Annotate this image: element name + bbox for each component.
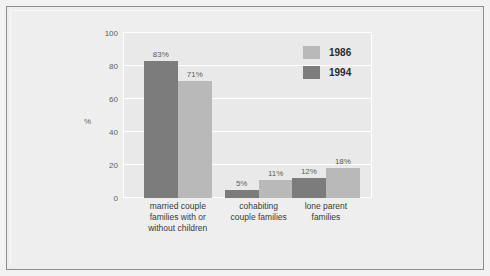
x-axis-category-label: lone parentfamilies (280, 201, 372, 223)
legend-label: 1986 (329, 47, 351, 58)
bar-value-label: 12% (289, 167, 329, 176)
bar-item[interactable]: 83% (144, 33, 178, 198)
figure-container: 020406080100 % 83%71%5%11%12%18% married… (0, 0, 490, 276)
bar[interactable] (326, 168, 360, 198)
x-axis-label-line: families (280, 212, 372, 223)
y-axis-tick-label: 20 (84, 161, 118, 170)
y-axis-title: % (84, 117, 91, 126)
bar-group: 5%11% (223, 33, 295, 198)
bar[interactable] (225, 190, 259, 198)
bar[interactable] (178, 81, 212, 198)
axis-left-edge (123, 33, 124, 198)
legend-swatch (303, 46, 320, 59)
x-axis-category-label: married couplefamilies with orwithout ch… (132, 201, 224, 234)
y-axis-tick-label: 60 (84, 95, 118, 104)
bar-value-label: 83% (141, 50, 181, 59)
y-axis-tick-label: 80 (84, 62, 118, 71)
chart-legend: 19861994 (303, 46, 351, 86)
bar[interactable] (292, 178, 326, 198)
y-axis-tick-labels: 020406080100 (82, 33, 118, 198)
bar-item[interactable]: 5% (225, 33, 259, 198)
bar[interactable] (144, 61, 178, 198)
legend-item[interactable]: 1994 (303, 66, 351, 79)
bar-item[interactable]: 71% (178, 33, 212, 198)
bar-value-label: 5% (222, 179, 262, 188)
legend-label: 1994 (329, 67, 351, 78)
y-axis-tick-label: 0 (84, 194, 118, 203)
y-axis-tick-label: 40 (84, 128, 118, 137)
x-axis-label-line: without children (132, 223, 224, 234)
bar-value-label: 18% (323, 157, 363, 166)
bar-value-label: 71% (175, 70, 215, 79)
bar[interactable] (259, 180, 293, 198)
x-axis-label-line: lone parent (280, 201, 372, 212)
axis-right-edge (371, 33, 372, 198)
legend-swatch (303, 66, 320, 79)
y-axis-tick-label: 100 (84, 29, 118, 38)
bar-item[interactable]: 11% (259, 33, 293, 198)
bar-group: 83%71% (142, 33, 214, 198)
x-axis-label-line: families with or (132, 212, 224, 223)
x-axis-label-line: married couple (132, 201, 224, 212)
legend-item[interactable]: 1986 (303, 46, 351, 59)
x-axis-category-labels: married couplefamilies with orwithout ch… (123, 201, 372, 245)
